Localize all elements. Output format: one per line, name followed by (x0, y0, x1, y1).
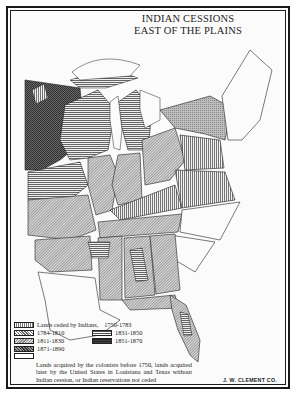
region-new-england (222, 50, 272, 140)
legend-label-1811: 1811-1830 (37, 337, 64, 344)
pattern-swatch-icon (92, 330, 112, 336)
legend-row-1811: 1811-1830 (14, 337, 64, 344)
region-georgia (150, 234, 180, 294)
pattern-swatch-icon (14, 338, 34, 344)
legend-note: Lands acquired by the colonists before 1… (36, 361, 192, 383)
legend-row-blank (14, 353, 37, 359)
region-creek-cession (88, 242, 110, 258)
legend-label-1750: 1750-1783 (104, 321, 131, 328)
legend-label-1851: 1851-1870 (115, 337, 142, 344)
legend-row-1750: Lands ceded by Indians, 1750-1783 (14, 321, 132, 328)
map-legend: Lands ceded by Indians, 1750-1783 1784-1… (14, 321, 184, 379)
region-virginia (175, 170, 235, 208)
region-missouri (28, 195, 96, 240)
map-title: INDIAN CESSIONS EAST OF THE PLAINS (118, 13, 258, 37)
title-line-2: EAST OF THE PLAINS (118, 25, 258, 37)
region-arkansas (35, 236, 92, 272)
pattern-swatch-icon (14, 330, 34, 336)
region-indiana (112, 153, 142, 205)
legend-heading: Lands ceded by Indians, (37, 321, 98, 328)
legend-row-1851: 1851-1870 (92, 337, 142, 344)
pattern-swatch-icon (14, 346, 34, 352)
title-line-1: INDIAN CESSIONS (118, 13, 258, 25)
region-pennsylvania (180, 135, 224, 170)
legend-label-1871: 1871-1890 (37, 345, 64, 352)
legend-row-1871: 1871-1890 (14, 345, 64, 352)
pattern-swatch-icon (14, 322, 34, 328)
legend-row-1831: 1831-1850 (92, 329, 142, 336)
blank-swatch-icon (14, 353, 34, 359)
publisher-credit: J. W. CLEMENT CO. (223, 377, 277, 383)
legend-row-1784: 1784-1810 (14, 329, 64, 336)
legend-label-1784: 1784-1810 (37, 329, 64, 336)
pattern-swatch-icon (92, 338, 112, 344)
legend-label-1831: 1831-1850 (115, 329, 142, 336)
region-north-carolina (180, 202, 240, 240)
